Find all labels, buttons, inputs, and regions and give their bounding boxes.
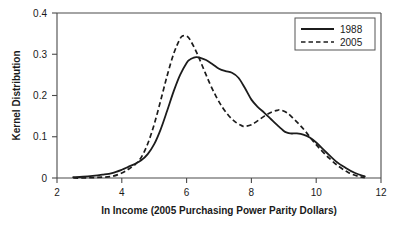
y-tick-label: 0.3 [33,49,47,60]
legend-label-2005: 2005 [340,37,363,48]
x-tick-label: 10 [311,187,323,198]
x-axis-title: In Income (2005 Purchasing Power Parity … [101,205,337,216]
x-tick-label: 2 [54,187,60,198]
y-tick-label: 0 [41,173,47,184]
x-tick-label: 4 [119,187,125,198]
x-tick-label: 8 [249,187,255,198]
y-tick-label: 0.4 [33,8,47,19]
chart-canvas: 0.4 0.3 0.2 0.1 0 2 4 6 8 10 12 [0,0,400,227]
y-axis-title: Kernel Distribution [11,50,22,140]
kernel-distribution-figure: 0.4 0.3 0.2 0.1 0 2 4 6 8 10 12 [0,0,400,227]
x-tick-label: 6 [184,187,190,198]
legend-box [295,18,375,50]
legend-label-1988: 1988 [340,24,363,35]
legend[interactable]: 1988 2005 [295,18,375,50]
x-tick-label: 12 [375,187,387,198]
y-tick-label: 0.2 [33,90,47,101]
y-tick-label: 0.1 [33,131,47,142]
